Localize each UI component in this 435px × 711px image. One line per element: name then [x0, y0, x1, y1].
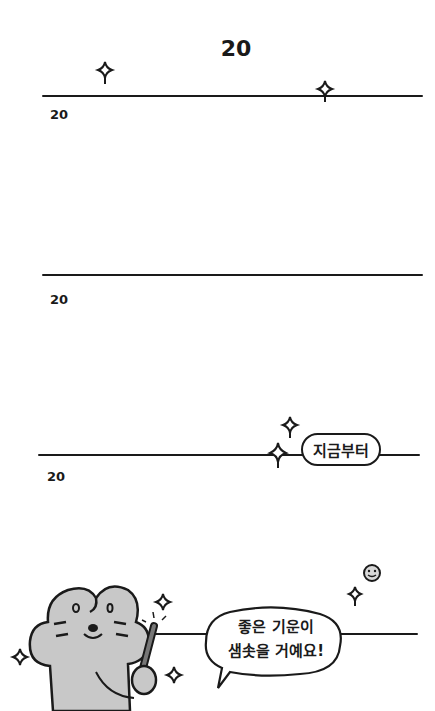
- writing-line-2: [42, 274, 423, 276]
- year-label-3: 20: [47, 469, 65, 484]
- writing-line-1: [42, 95, 423, 97]
- sparkle-icon: [96, 60, 114, 84]
- sparkle-icon: [166, 666, 182, 686]
- sparkle-icon: [348, 586, 362, 606]
- sparkle-icon: [268, 442, 288, 468]
- start-now-badge: 지금부터: [301, 433, 381, 466]
- sparkle-icon: [12, 648, 28, 668]
- speech-line-1: 좋은 기운이: [206, 615, 346, 639]
- sparkle-icon: [281, 416, 299, 438]
- speech-line-2: 샘솟을 거예요!: [206, 639, 346, 663]
- year-label-1: 20: [50, 107, 68, 122]
- page-title: 20: [0, 36, 435, 61]
- year-label-2: 20: [50, 292, 68, 307]
- mouse-character: [18, 576, 198, 711]
- speech-bubble-text: 좋은 기운이 샘솟을 거예요!: [206, 615, 346, 663]
- sparkle-icon: [316, 80, 334, 104]
- smiley-icon: [362, 563, 382, 583]
- sparkle-icon: [155, 593, 171, 613]
